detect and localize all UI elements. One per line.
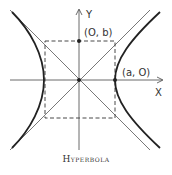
- x-axis-label: X: [155, 87, 162, 98]
- center-point: [77, 78, 81, 82]
- co-vertex-label: (O, b): [84, 27, 112, 38]
- vertex-label: (a, O): [122, 67, 150, 78]
- vertex-point: [113, 78, 117, 82]
- hyperbola-diagram: Y X (O, b) (a, O): [0, 0, 172, 175]
- co-vertex-point: [77, 39, 81, 43]
- y-axis-label: Y: [85, 9, 93, 20]
- diagram-caption: Hyperbola: [0, 154, 172, 164]
